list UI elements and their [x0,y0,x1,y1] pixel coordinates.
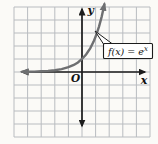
graph-canvas: f(x) = ex y x O [0,0,158,144]
function-label-base: f(x) = e [107,46,144,57]
exponential-graph-figure: f(x) = ex y x O [0,0,158,144]
x-axis-label: x [140,74,148,87]
origin-label: O [71,72,81,84]
y-axis-label: y [87,4,96,17]
function-label-exponent: x [144,45,148,53]
function-label: f(x) = ex [107,45,148,57]
